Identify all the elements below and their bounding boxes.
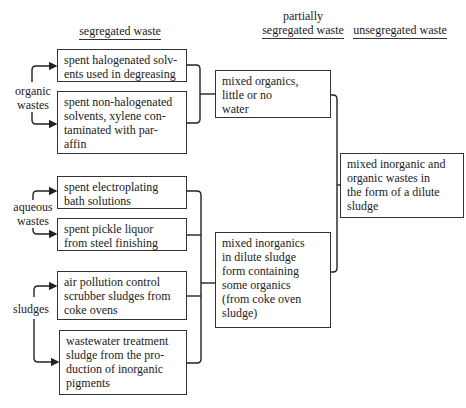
box-mixed-inorganics: mixed inorganics in dilute sludge form c…	[215, 232, 331, 328]
label-aqueous-wastes: aqueous wastes	[10, 200, 56, 228]
box-spent-halogenated-solvents: spent halogenated solv- ents used in deg…	[57, 49, 187, 82]
sludges-arrow-bottom	[34, 319, 58, 362]
sludges-arrow-top	[34, 286, 56, 297]
bracket-organics	[187, 65, 200, 123]
header-segregated-waste: segregated waste	[70, 24, 170, 40]
organic-arrow-top	[32, 66, 56, 82]
box-spent-non-halogenated-solvents: spent non-halogenated solvents, xylene c…	[57, 91, 187, 154]
aqueous-arrow-top	[33, 191, 56, 200]
bracket-inorganics	[187, 191, 201, 363]
header-partially-segregated-waste: partially segregated waste	[248, 9, 358, 39]
header-unsegregated-waste: unsegregated waste	[348, 23, 452, 39]
box-air-pollution-control: air pollution control scrubber sludges f…	[57, 271, 187, 320]
box-spent-pickle-liquor: spent pickle liquor from steel finishing	[57, 218, 187, 251]
box-spent-electroplating: spent electroplating bath solutions	[57, 176, 187, 209]
box-wastewater-treatment-sludge: wastewater treatment sludge from the pro…	[59, 330, 187, 395]
label-organic-wastes: organic wastes	[10, 84, 56, 112]
box-mixed-organics: mixed organics, little or no water	[215, 70, 331, 118]
label-sludges: sludges	[8, 302, 54, 316]
box-mixed-inorganic-and-organic-wastes: mixed inorganic and organic wastes in th…	[340, 153, 464, 218]
